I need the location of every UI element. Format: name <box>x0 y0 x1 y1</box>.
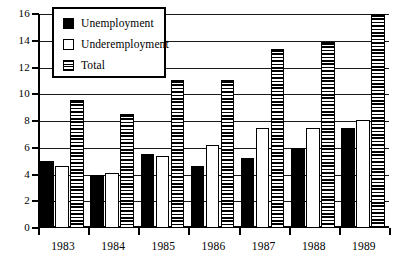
chart-legend: Unemployment Underemployment Total <box>52 7 166 78</box>
bar-unemployment-1989 <box>341 128 355 228</box>
bar-underemployment-1987 <box>256 128 270 228</box>
bar-underemployment-1983 <box>55 166 69 228</box>
bar-underemployment-1986 <box>206 145 220 228</box>
bar-total-1986 <box>221 80 235 228</box>
y-tick-label: 2 <box>4 195 30 206</box>
legend-swatch-underemployment-icon <box>63 39 74 50</box>
legend-swatch-total-icon <box>63 60 74 71</box>
y-tick-label: 14 <box>4 35 30 46</box>
y-tick-label: 12 <box>4 62 30 73</box>
bar-unemployment-1983 <box>40 161 54 228</box>
legend-swatch-unemployment-icon <box>63 18 74 29</box>
x-tick-mark <box>188 228 190 235</box>
x-tick-mark <box>239 228 241 235</box>
x-tick-mark-origin <box>38 228 40 235</box>
legend-item-total: Total <box>63 59 105 71</box>
bar-total-1987 <box>271 49 285 228</box>
bar-total-1988 <box>321 42 335 228</box>
legend-item-unemployment: Unemployment <box>63 17 154 29</box>
legend-label-unemployment: Unemployment <box>81 17 154 29</box>
x-tick-mark <box>289 228 291 235</box>
bar-underemployment-1988 <box>306 128 320 228</box>
bar-total-1989 <box>371 14 385 228</box>
bar-chart: 0246810121416 19831984198519861987198819… <box>0 0 402 266</box>
y-tick-label: 6 <box>4 142 30 153</box>
x-tick-mark <box>389 228 391 235</box>
y-tick-label: 10 <box>4 88 30 99</box>
bar-underemployment-1985 <box>156 156 170 228</box>
y-tick-label: 8 <box>4 115 30 126</box>
bar-total-1985 <box>171 80 185 228</box>
y-tick-label: 16 <box>4 8 30 19</box>
y-tick-label: 0 <box>4 222 30 233</box>
legend-label-total: Total <box>81 59 105 71</box>
x-tick-mark <box>138 228 140 235</box>
legend-label-underemployment: Underemployment <box>81 38 169 50</box>
bar-total-1984 <box>120 114 134 228</box>
bar-unemployment-1984 <box>90 175 104 229</box>
bar-unemployment-1985 <box>141 154 155 228</box>
x-tick-mark <box>88 228 90 235</box>
bar-underemployment-1984 <box>105 173 119 228</box>
bar-unemployment-1986 <box>191 166 205 228</box>
bar-unemployment-1988 <box>291 148 305 228</box>
bar-underemployment-1989 <box>356 120 370 228</box>
bar-total-1983 <box>70 100 84 228</box>
y-tick-label: 4 <box>4 169 30 180</box>
legend-item-underemployment: Underemployment <box>63 38 169 50</box>
x-tick-label-1989: 1989 <box>334 240 394 252</box>
bar-unemployment-1987 <box>241 158 255 228</box>
x-tick-mark <box>339 228 341 235</box>
